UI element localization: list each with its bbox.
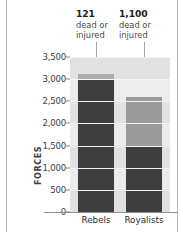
y-tick-label: 3,000 xyxy=(42,74,66,84)
y-tick-label: 2,500 xyxy=(42,96,66,106)
y-tick-label: 2,000 xyxy=(42,118,66,128)
gridline xyxy=(70,146,170,147)
annotation-rebels: 121 dead or injured xyxy=(76,9,120,41)
y-tick-label: 3,500 xyxy=(42,52,66,62)
y-axis-ticks: 3,5003,0002,5002,0001,5001,0005000 xyxy=(26,57,70,212)
x-axis-line xyxy=(44,212,178,213)
bar-royalists-casualties xyxy=(126,97,162,146)
bar-royalists xyxy=(126,57,162,212)
annotation-royalists: 1,100 dead or injured xyxy=(119,9,163,41)
x-tick-label: Royalists xyxy=(104,215,183,225)
gridline xyxy=(70,190,170,191)
chart-figure: 121 dead or injured 1,100 dead or injure… xyxy=(0,0,183,232)
plot-region: FORCES 3,5003,0002,5002,0001,5001,000500… xyxy=(12,57,178,232)
annotation-rebels-line1: dead or xyxy=(76,20,120,31)
bar-royalists-surviving xyxy=(126,146,162,212)
annotation-royalists-line1: dead or xyxy=(119,20,163,31)
y-tick-label: 500 xyxy=(50,185,66,195)
annotation-layer: 121 dead or injured 1,100 dead or injure… xyxy=(0,0,183,58)
x-axis-labels: RebelsRoyalists xyxy=(70,215,170,231)
annotation-royalists-line2: injured xyxy=(119,30,163,41)
annotation-rebels-line2: injured xyxy=(76,30,120,41)
gridline xyxy=(70,168,170,169)
y-tick-label: 1,500 xyxy=(42,141,66,151)
gridline xyxy=(70,101,170,102)
annotation-royalists-value: 1,100 xyxy=(119,9,163,20)
bar-rebels xyxy=(78,57,114,212)
gridline xyxy=(70,57,170,58)
plot-area xyxy=(70,57,170,212)
annotation-rebels-value: 121 xyxy=(76,9,120,20)
gridline xyxy=(70,79,170,80)
y-tick-label: 1,000 xyxy=(42,163,66,173)
gridline xyxy=(70,123,170,124)
